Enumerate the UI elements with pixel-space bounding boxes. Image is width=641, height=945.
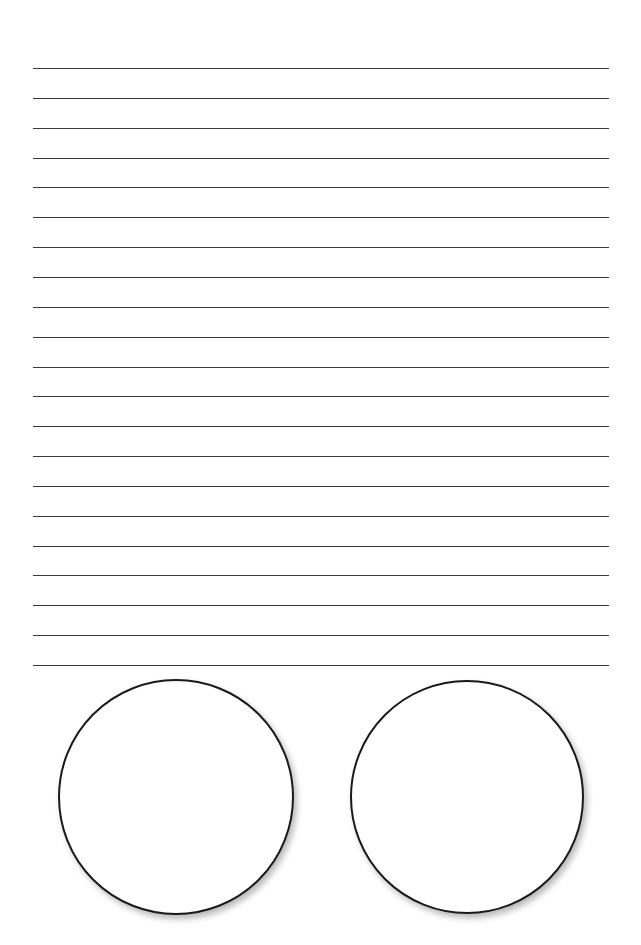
ruled-line [33, 307, 609, 308]
ruled-line [33, 128, 609, 129]
drawing-circle-left [58, 679, 294, 915]
ruled-line [33, 277, 609, 278]
ruled-line [33, 456, 609, 457]
ruled-line [33, 516, 609, 517]
ruled-line [33, 396, 609, 397]
ruled-line [33, 217, 609, 218]
ruled-line [33, 486, 609, 487]
ruled-line [33, 247, 609, 248]
drawing-circle-right [350, 680, 584, 914]
ruled-line [33, 68, 609, 69]
ruled-line [33, 635, 609, 636]
ruled-line [33, 187, 609, 188]
ruled-line [33, 367, 609, 368]
ruled-line [33, 665, 609, 666]
ruled-line [33, 337, 609, 338]
ruled-line [33, 575, 609, 576]
ruled-line [33, 98, 609, 99]
ruled-line [33, 426, 609, 427]
ruled-line [33, 605, 609, 606]
worksheet-page [0, 0, 641, 945]
ruled-line [33, 158, 609, 159]
ruled-line [33, 546, 609, 547]
